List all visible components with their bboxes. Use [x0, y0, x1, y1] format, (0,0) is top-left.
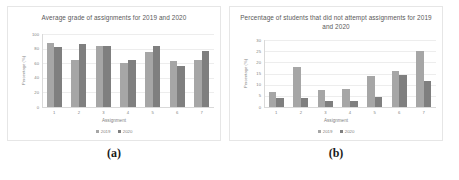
x-axis-tick: 1	[44, 110, 64, 115]
y-axis-tick: 10	[242, 82, 261, 87]
panel-a: Average grade of assignments for 2019 an…	[6, 6, 222, 180]
legend-label: 2020	[123, 129, 133, 134]
y-axis-tick: 5	[242, 93, 261, 98]
gridline	[264, 40, 436, 41]
bar-2019-assignment-5	[145, 52, 153, 107]
bar-2020-assignment-7	[202, 51, 210, 107]
chart-a: Average grade of assignments for 2019 an…	[7, 6, 221, 141]
legend-swatch-icon	[118, 130, 121, 133]
legend-item-2019[interactable]: 2019	[318, 129, 333, 134]
panel-a-caption: (a)	[107, 146, 121, 161]
bar-2019-assignment-4	[120, 63, 128, 107]
gridline	[264, 85, 436, 86]
chart-b: Percentage of students that did not atte…	[229, 6, 443, 141]
x-axis-tick: 4	[340, 110, 360, 115]
x-axis-label: Assignment	[230, 118, 442, 123]
x-axis-line	[264, 107, 436, 108]
bar-2020-assignment-6	[399, 75, 407, 107]
legend-item-2019[interactable]: 2019	[96, 129, 111, 134]
y-axis-tick: 20	[20, 90, 39, 95]
x-axis-tick: 3	[93, 110, 113, 115]
gridline	[264, 51, 436, 52]
legend-label: 2019	[323, 129, 333, 134]
bar-2019-assignment-2	[293, 67, 301, 107]
bar-2020-assignment-1	[54, 47, 62, 107]
y-axis-tick: 100	[20, 32, 39, 37]
chart-a-plot-area: Percentage (%)0204060801001234567Assignm…	[8, 7, 220, 140]
legend-item-2020[interactable]: 2020	[340, 129, 355, 134]
chart-legend: 20192020	[8, 129, 220, 134]
x-axis-tick: 2	[291, 110, 311, 115]
y-axis-tick: 0	[20, 105, 39, 110]
x-axis-tick: 3	[315, 110, 335, 115]
bar-2020-assignment-4	[350, 101, 358, 107]
bar-2019-assignment-7	[416, 51, 424, 107]
figure-container: Average grade of assignments for 2019 an…	[0, 0, 459, 180]
y-axis-tick: 40	[20, 75, 39, 80]
y-axis-line	[264, 40, 265, 108]
x-axis-tick: 6	[389, 110, 409, 115]
bar-2020-assignment-2	[301, 98, 309, 107]
bar-2020-assignment-7	[424, 81, 432, 107]
panel-b-caption: (b)	[329, 146, 344, 161]
bar-2020-assignment-1	[276, 98, 284, 107]
y-axis-tick: 30	[242, 38, 261, 43]
x-axis-tick: 1	[266, 110, 286, 115]
y-axis-line	[42, 34, 43, 108]
legend-label: 2020	[345, 129, 355, 134]
bar-2019-assignment-4	[342, 89, 350, 107]
x-axis-tick: 7	[192, 110, 212, 115]
bar-2020-assignment-6	[177, 66, 185, 107]
legend-swatch-icon	[318, 130, 321, 133]
x-axis-tick: 2	[69, 110, 89, 115]
legend-label: 2019	[101, 129, 111, 134]
bar-2019-assignment-1	[269, 92, 277, 107]
x-axis-line	[42, 107, 214, 108]
bar-2020-assignment-5	[375, 97, 383, 107]
gridline	[42, 49, 214, 50]
x-axis-tick: 5	[365, 110, 385, 115]
y-axis-tick: 0	[242, 105, 261, 110]
x-axis-tick: 6	[167, 110, 187, 115]
y-axis-tick: 20	[242, 60, 261, 65]
x-axis-tick: 7	[414, 110, 434, 115]
gridline	[264, 62, 436, 63]
legend-swatch-icon	[340, 130, 343, 133]
chart-b-plot-area: Percentage (%)0510152025301234567Assignm…	[230, 7, 442, 140]
bar-2019-assignment-5	[367, 76, 375, 107]
bar-2020-assignment-3	[325, 101, 333, 107]
legend-swatch-icon	[96, 130, 99, 133]
bar-2020-assignment-2	[79, 44, 87, 107]
bar-2019-assignment-3	[318, 90, 326, 107]
bar-2020-assignment-5	[153, 46, 161, 107]
legend-item-2020[interactable]: 2020	[118, 129, 133, 134]
gridline	[264, 74, 436, 75]
bar-2020-assignment-3	[103, 46, 111, 107]
panel-b: Percentage of students that did not atte…	[228, 6, 444, 180]
bar-2019-assignment-6	[170, 61, 178, 107]
bar-2019-assignment-3	[96, 46, 104, 107]
bar-2019-assignment-1	[47, 43, 55, 107]
chart-legend: 20192020	[230, 129, 442, 134]
bar-2020-assignment-4	[128, 60, 136, 107]
x-axis-tick: 4	[118, 110, 138, 115]
gridline	[42, 34, 214, 35]
y-axis-tick: 25	[242, 49, 261, 54]
x-axis-tick: 5	[143, 110, 163, 115]
bar-2019-assignment-7	[194, 60, 202, 107]
x-axis-label: Assignment	[8, 118, 220, 123]
y-axis-tick: 60	[20, 61, 39, 66]
gridline	[264, 96, 436, 97]
bar-2019-assignment-2	[71, 60, 79, 107]
bar-2019-assignment-6	[392, 71, 400, 107]
y-axis-tick: 15	[242, 71, 261, 76]
y-axis-tick: 80	[20, 46, 39, 51]
